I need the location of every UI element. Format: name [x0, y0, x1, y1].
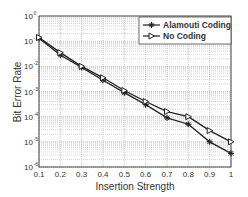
y-tick-label: 10 — [24, 163, 33, 172]
x-tick-label: 0.6 — [140, 170, 152, 179]
data-point — [164, 115, 170, 121]
data-point — [185, 121, 191, 127]
x-tick-label: 0.1 — [33, 170, 45, 179]
data-point — [165, 109, 171, 115]
legend-label: No Coding — [163, 31, 206, 41]
x-axis-ticks: 0.10.20.30.40.50.60.70.80.91 — [33, 170, 233, 179]
legend: Alamouti CodingNo Coding — [139, 17, 231, 44]
x-tick-label: 0.8 — [183, 170, 195, 179]
star-marker-icon — [149, 22, 155, 28]
ber-chart: 10010-110-210-310-410-510-6 0.10.20.30.4… — [0, 0, 248, 197]
data-point — [228, 150, 234, 156]
y-tick-label: 10 — [24, 37, 33, 46]
x-tick-label: 0.4 — [97, 170, 109, 179]
x-tick-label: 0.9 — [204, 170, 216, 179]
legend-label: Alamouti Coding — [163, 20, 231, 30]
y-tick-label: 10 — [24, 138, 33, 147]
y-tick-exponent: -5 — [34, 136, 39, 142]
y-tick-label: 10 — [24, 113, 33, 122]
y-tick-exponent: -6 — [34, 161, 39, 167]
x-axis-label: Insertion Strength — [96, 181, 175, 192]
x-tick-label: 0.2 — [55, 170, 67, 179]
chart-canvas: 10010-110-210-310-410-510-6 0.10.20.30.4… — [0, 0, 248, 197]
y-tick-label: 10 — [24, 62, 33, 71]
x-tick-label: 0.7 — [161, 170, 173, 179]
y-tick-exponent: -3 — [34, 86, 39, 92]
y-tick-exponent: -2 — [34, 60, 39, 66]
y-tick-label: 10 — [24, 88, 33, 97]
x-tick-label: 0.3 — [76, 170, 88, 179]
data-point — [207, 139, 213, 145]
y-axis-label: Bit Error Rate — [12, 61, 23, 122]
y-tick-label: 10 — [24, 12, 33, 21]
y-tick-exponent: -4 — [34, 111, 39, 117]
x-tick-label: 0.5 — [119, 170, 131, 179]
x-tick-label: 1 — [229, 170, 234, 179]
y-tick-exponent: 0 — [34, 10, 37, 16]
